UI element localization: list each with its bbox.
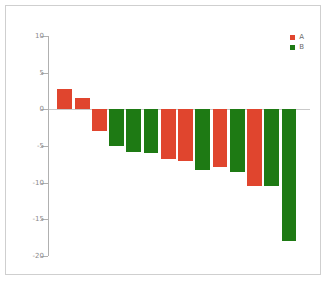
bar xyxy=(213,109,228,166)
y-tick-label: -20 xyxy=(33,253,44,260)
legend-item[interactable]: B xyxy=(290,44,304,51)
chart-figure: 1050-5-10-15-20 AB xyxy=(5,5,321,275)
chart-legend: AB xyxy=(290,34,304,51)
bar xyxy=(282,109,297,241)
bar xyxy=(264,109,279,186)
square-marker-icon xyxy=(290,45,295,50)
y-tick-label: 10 xyxy=(35,33,44,40)
bar xyxy=(178,109,193,160)
y-tick-label: 5 xyxy=(40,69,44,76)
bar xyxy=(92,109,107,131)
y-axis: 1050-5-10-15-20 xyxy=(48,36,49,256)
bar xyxy=(144,109,159,153)
bar xyxy=(161,109,176,159)
y-tick-label: -15 xyxy=(33,216,44,223)
y-tick-label: 0 xyxy=(40,106,44,113)
y-tick-label: -10 xyxy=(33,179,44,186)
legend-label: B xyxy=(299,44,304,51)
bar xyxy=(126,109,141,152)
bar xyxy=(230,109,245,171)
legend-item[interactable]: A xyxy=(290,34,304,41)
bar xyxy=(109,109,124,146)
bar xyxy=(247,109,262,186)
bar xyxy=(57,89,72,110)
legend-label: A xyxy=(299,34,304,41)
bar xyxy=(75,98,90,109)
plot-area xyxy=(48,36,310,256)
bar-series-container xyxy=(48,36,310,256)
square-marker-icon xyxy=(290,35,295,40)
y-tick-label: -5 xyxy=(37,143,44,150)
bar xyxy=(195,109,210,170)
